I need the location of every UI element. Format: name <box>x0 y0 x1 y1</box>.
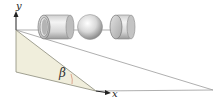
hollow-cylinder <box>38 15 74 39</box>
y-axis-label: y <box>16 1 22 11</box>
y-axis-arrow-icon <box>14 11 19 17</box>
y-axis <box>14 11 19 30</box>
x-axis-label: x <box>112 89 118 99</box>
angle-label: β <box>59 67 66 79</box>
solid-cylinder <box>110 15 135 39</box>
sphere <box>78 15 103 40</box>
